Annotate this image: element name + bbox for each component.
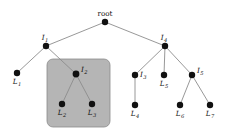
tree-node-I5 <box>189 72 195 78</box>
tree-svg: rootI1I4L1I2L2L3I3L5I5L4L6L7 <box>0 0 227 135</box>
tree-node-root <box>102 19 108 25</box>
tree-node-L4 <box>132 102 138 108</box>
tree-node-L1 <box>14 70 20 76</box>
tree-diagram-figure: rootI1I4L1I2L2L3I3L5I5L4L6L7 <box>0 0 227 135</box>
tree-node-label-root: root <box>98 9 113 18</box>
subtree-highlight-box <box>47 59 110 127</box>
tree-node-L6 <box>177 102 183 108</box>
tree-node-I1 <box>43 43 49 49</box>
tree-node-L5 <box>161 72 167 78</box>
tree-node-L7 <box>207 102 213 108</box>
tree-node-I4 <box>162 43 168 49</box>
tree-node-L2 <box>59 101 65 107</box>
tree-node-I2 <box>73 71 80 78</box>
tree-node-L3 <box>89 101 95 107</box>
tree-node-I3 <box>132 72 138 78</box>
figure-background <box>0 0 227 135</box>
